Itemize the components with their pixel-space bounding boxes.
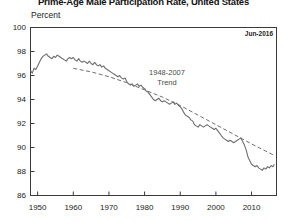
y-axis-tick-label: 90 <box>4 143 26 152</box>
y-axis-tick-label: 96 <box>4 71 26 80</box>
y-axis-tick-label: 88 <box>4 167 26 176</box>
x-axis-tick-label: 2000 <box>196 203 236 212</box>
series-line-participation-rate <box>31 54 275 170</box>
x-axis-tick-label: 1970 <box>89 203 129 212</box>
x-axis-tick-label: 1990 <box>160 203 200 212</box>
plot-frame <box>31 28 277 196</box>
x-axis-tick-label: 2010 <box>232 203 272 212</box>
x-axis-tick-label: 1980 <box>125 203 165 212</box>
chart-container: Prime-Age Male Participation Rate, Unite… <box>0 0 287 221</box>
axis-ticks <box>31 52 252 196</box>
y-axis-tick-label: 86 <box>4 191 26 200</box>
plot-area <box>0 0 287 221</box>
x-axis-tick-label: 1950 <box>18 203 58 212</box>
y-axis-tick-label: 100 <box>4 23 26 32</box>
y-axis-tick-label: 98 <box>4 47 26 56</box>
y-axis-tick-label: 94 <box>4 95 26 104</box>
x-axis-tick-label: 1960 <box>53 203 93 212</box>
y-axis-tick-label: 92 <box>4 119 26 128</box>
